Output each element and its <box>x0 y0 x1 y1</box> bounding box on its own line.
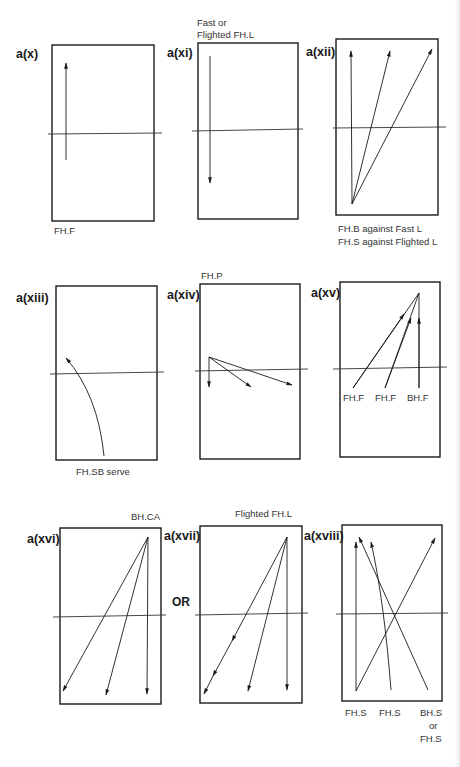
panel-label: a(x) <box>16 47 38 61</box>
shot-arrow-cross <box>352 49 432 204</box>
shot-arrow-straight <box>351 51 352 204</box>
panel-caption-line2: FH.S against Flighted L <box>338 236 437 247</box>
shot-label: BH.S <box>420 707 442 718</box>
shot-arrow-angled <box>385 318 411 388</box>
net-line <box>333 367 447 369</box>
shot-arrow-cross <box>353 314 404 388</box>
shot-arrow-mid2 <box>213 641 232 676</box>
shot-arrow-cross <box>204 676 213 694</box>
panel-label: a(xvi) <box>27 532 60 546</box>
or-connector: OR <box>172 595 190 609</box>
panel-label: a(xi) <box>167 46 193 60</box>
panel-caption-top-line1: Fast or <box>197 17 227 28</box>
panel-a-xi: Fast or Flighted FH.L a(xi) <box>167 17 303 219</box>
panel-a-xiv: FH.P a(xiv) <box>167 270 308 459</box>
shot-label: FH.S <box>345 707 367 718</box>
panel-a-xviii: a(xviii) FH.S FH.S BH.S or FH.S <box>304 525 448 744</box>
shot-arrow-wide <box>209 357 292 385</box>
shot-arrow-mid <box>232 537 287 641</box>
panel-label: a(xii) <box>306 45 335 59</box>
shot-label: FH.F <box>343 392 364 403</box>
shot-arrow-straight <box>147 537 148 694</box>
panel-caption-top: Flighted FH.L <box>235 508 292 519</box>
panel-label: a(xiii) <box>16 291 49 305</box>
shot-label: FH.S <box>379 707 401 718</box>
net-line <box>336 613 448 614</box>
panel-caption-top-line2: Flighted FH.L <box>197 29 254 40</box>
shot-arrow-angled <box>209 357 251 387</box>
net-line <box>192 129 303 131</box>
shot-label-alt: FH.S <box>420 733 442 744</box>
panel-a-x: a(x) FH.F <box>16 45 162 236</box>
panel-label: a(xiv) <box>167 288 200 302</box>
court-outline <box>340 282 440 457</box>
panel-caption: FH.F <box>54 225 75 236</box>
net-line <box>195 369 308 371</box>
panel-a-xv: a(xv) FH.F FH.F BH.F <box>311 282 447 457</box>
court-outline <box>200 284 300 459</box>
shot-diagrams-figure: a(x) FH.F Fast or Flighted FH.L a(xi) a(… <box>0 0 460 767</box>
panel-label: a(xviii) <box>304 529 344 543</box>
panel-a-xvi: BH.CA a(xvi) <box>27 511 166 704</box>
shot-arrow-cross <box>356 538 435 691</box>
shot-label: BH.F <box>407 392 429 403</box>
panel-label: a(xv) <box>311 286 340 300</box>
panel-a-xiii: a(xiii) FH.SB serve <box>16 286 164 477</box>
panel-caption: FH.SB serve <box>76 466 130 477</box>
shot-arrow-curved <box>371 542 391 690</box>
serve-curve-arrow <box>66 358 104 456</box>
panel-label: a(xvii) <box>164 529 200 543</box>
shot-arrow-cross <box>63 537 148 691</box>
panel-caption-line1: FH.B against Fast L <box>338 223 422 234</box>
shot-label: FH.F <box>375 392 396 403</box>
panel-caption-top: FH.P <box>201 270 223 281</box>
net-line <box>195 613 308 615</box>
shot-label-or: or <box>429 720 437 731</box>
panel-a-xii: a(xii) FH.B against Fast L FH.S against … <box>306 39 446 247</box>
panel-caption-top: BH.CA <box>131 511 161 522</box>
net-line <box>48 133 162 134</box>
net-line <box>333 127 446 128</box>
net-line <box>50 372 164 374</box>
net-line <box>53 615 166 617</box>
